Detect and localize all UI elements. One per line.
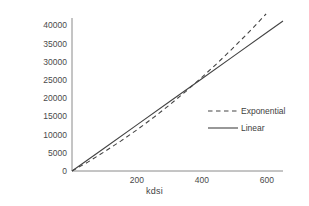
legend-symbols xyxy=(208,111,238,128)
x-tick-label: 200 xyxy=(115,175,159,185)
series-line-exponential xyxy=(72,14,266,171)
y-tick-label: 25000 xyxy=(25,75,67,85)
y-tick-label: 20000 xyxy=(25,93,67,103)
y-tick-label: 30000 xyxy=(25,57,67,67)
y-tick-label: 10000 xyxy=(25,130,67,140)
y-tick-label: 40000 xyxy=(25,20,67,30)
y-tick-label: 35000 xyxy=(25,39,67,49)
x-tick-label: 400 xyxy=(180,175,224,185)
legend-label-linear: Linear xyxy=(241,123,265,133)
y-tick-label: 0 xyxy=(25,166,67,176)
data-series-group xyxy=(72,14,283,171)
y-tick-label: 5000 xyxy=(25,148,67,158)
legend-label-exponential: Exponential xyxy=(241,106,285,116)
chart-figure: Staff-days kdsi Exponential Linear 05000… xyxy=(0,0,309,206)
y-tick-label: 15000 xyxy=(25,111,67,121)
x-tick-label: 600 xyxy=(245,175,289,185)
series-line-linear xyxy=(72,21,283,171)
